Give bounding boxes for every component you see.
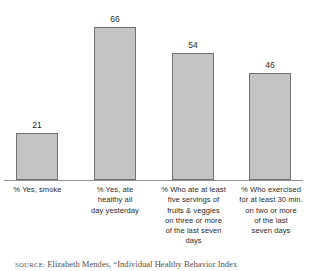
category-label-line: on two or more xyxy=(233,206,309,216)
category-label-line: of the last seven xyxy=(155,226,232,236)
category-label-line: % Yes, smoke xyxy=(0,185,75,195)
bar-rect[interactable] xyxy=(94,27,136,180)
category-label-exercised: % Who exercised for at least 30 min. on … xyxy=(233,185,309,236)
x-axis-baseline xyxy=(4,180,303,181)
category-label-line: day yesterday xyxy=(76,206,154,216)
bar-rect[interactable] xyxy=(249,73,291,180)
category-label-line: % Who exercised xyxy=(233,185,309,195)
category-label-line: % Yes, ate xyxy=(76,185,154,195)
category-label-line: healthy all xyxy=(76,195,154,205)
bar-value-label: 54 xyxy=(162,41,224,50)
bar-chart-figure: 21 66 54 46 % Yes, smoke % Yes, ate heal… xyxy=(0,0,309,271)
bar-value-label: 21 xyxy=(6,121,68,130)
source-note: SOURCE: Elizabeth Mendes, “Individual He… xyxy=(15,259,305,270)
bar-value-label: 46 xyxy=(239,61,301,70)
category-label-smoke: % Yes, smoke xyxy=(0,185,75,195)
category-label-line: for at least 30 min. xyxy=(233,195,309,205)
category-label-line: five servings of xyxy=(155,195,232,205)
category-label-five-servings: % Who ate at least five servings of frui… xyxy=(155,185,232,247)
source-note-text: Elizabeth Mendes, “Individual Healthy Be… xyxy=(45,259,237,269)
category-label-line: of the last xyxy=(233,216,309,226)
bar-value-label: 66 xyxy=(84,15,146,24)
bar-rect[interactable] xyxy=(16,133,58,180)
plot-area: 21 66 54 46 xyxy=(0,0,309,181)
category-label-line: days xyxy=(155,236,232,246)
category-axis-labels: % Yes, smoke % Yes, ate healthy all day … xyxy=(0,185,309,251)
category-label-line: on three or more xyxy=(155,216,232,226)
bar-rect[interactable] xyxy=(172,53,214,180)
category-label-line: seven days xyxy=(233,226,309,236)
category-label-ate-healthy: % Yes, ate healthy all day yesterday xyxy=(76,185,154,216)
category-label-line: fruits & veggies xyxy=(155,206,232,216)
source-note-prefix: SOURCE: xyxy=(15,261,45,268)
category-label-line: % Who ate at least xyxy=(155,185,232,195)
